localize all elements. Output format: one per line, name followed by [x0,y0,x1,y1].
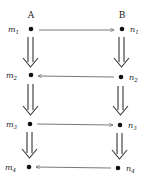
node-m3: m3 [6,120,32,130]
node-n1: n1 [120,25,139,35]
node-m4: m4 [5,163,31,173]
node-label: n3 [128,121,137,131]
arrow-n4-to-m4-icon [36,167,111,168]
column-header-b: B [119,10,126,20]
node-m2: m2 [6,71,33,81]
double-arrow-n1-to-n2-icon [114,37,129,67]
column-header-a: A [27,10,35,20]
node-dot-icon [27,165,32,170]
node-dot-icon [119,75,124,80]
node-dot-icon [29,27,34,32]
node-dot-icon [116,166,121,171]
double-arrow-n2-to-n3-icon [113,86,128,115]
node-n2: n2 [119,73,138,83]
double-arrow-m3-to-m4-icon [22,132,37,158]
diagram-canvas: A B m1 m2 m3 m4 n1 n2 n3 n4 [0,0,151,181]
node-dot-icon [29,73,34,78]
node-label: m1 [8,25,19,35]
node-label: m4 [5,163,17,173]
node-n3: n3 [118,121,137,131]
node-label: n1 [130,25,139,35]
node-label: n4 [126,164,135,174]
node-label: n2 [129,73,138,83]
double-arrow-m1-to-m2-icon [23,37,38,67]
node-label: m2 [6,71,18,81]
node-dot-icon [120,27,125,32]
node-dot-icon [28,122,33,127]
node-n4: n4 [116,164,135,174]
double-arrow-m2-to-m3-icon [23,84,38,115]
node-label: m3 [6,120,18,130]
arrow-n2-to-m2-icon [38,76,114,77]
node-m1: m1 [8,25,33,35]
double-arrow-n3-to-n4-icon [112,133,127,159]
arrow-m3-to-n3-icon [37,124,113,125]
node-dot-icon [118,123,123,128]
